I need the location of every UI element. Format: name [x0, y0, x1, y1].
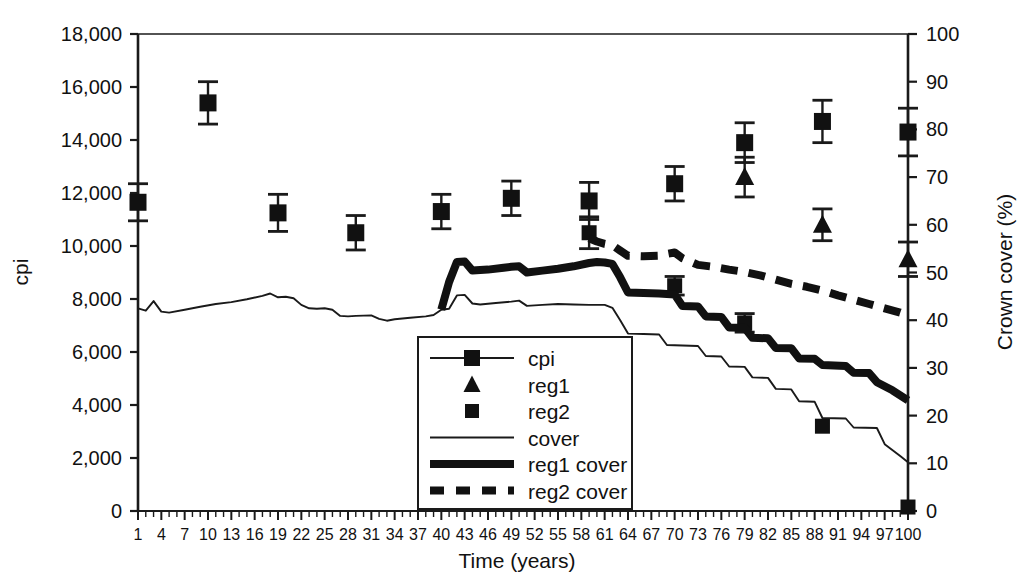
x-tick-label: 52: [526, 526, 544, 543]
y2-tick-label: 20: [926, 405, 948, 427]
y2-tick-label: 90: [926, 71, 948, 93]
y-tick-label: 18,000: [61, 23, 122, 45]
chart-legend: cpireg1reg2coverreg1 coverreg2 cover: [418, 337, 632, 509]
x-tick-label: 73: [689, 526, 707, 543]
x-tick-label: 55: [549, 526, 567, 543]
x-tick-label: 13: [222, 526, 240, 543]
y2-tick-label: 30: [926, 357, 948, 379]
y2-tick-label: 0: [926, 500, 937, 522]
y-tick-label: 0: [111, 500, 122, 522]
y-tick-label: 8,000: [72, 288, 122, 310]
chart-root: 02,0004,0006,0008,00010,00012,00014,0001…: [0, 0, 1035, 588]
y2-tick-label: 100: [926, 23, 959, 45]
data-point-square: [814, 113, 831, 130]
y2-tick-label: 70: [926, 166, 948, 188]
y-tick-label: 2,000: [72, 447, 122, 469]
x-tick-label: 91: [829, 526, 847, 543]
x-tick-label: 19: [269, 526, 287, 543]
y-tick-label: 16,000: [61, 76, 122, 98]
x-tick-label: 31: [362, 526, 380, 543]
y2-tick-label: 80: [926, 118, 948, 140]
x-tick-label: 16: [246, 526, 264, 543]
x-tick-label: 28: [339, 526, 357, 543]
x-tick-label: 70: [666, 526, 684, 543]
x-tick-label: 7: [180, 526, 189, 543]
x-tick-label: 37: [409, 526, 427, 543]
legend-marker-square: [464, 350, 480, 366]
x-tick-label: 67: [642, 526, 660, 543]
x-tick-label: 61: [596, 526, 614, 543]
x-tick-label: 58: [572, 526, 590, 543]
data-point-square: [581, 192, 598, 209]
x-tick-label: 1: [134, 526, 143, 543]
x-axis-title: Time (years): [458, 549, 575, 572]
legend-marker-square: [465, 404, 479, 418]
x-tick-label: 64: [619, 526, 637, 543]
x-tick-label: 94: [852, 526, 870, 543]
x-tick-label: 4: [157, 526, 166, 543]
x-tick-label: 85: [782, 526, 800, 543]
y-tick-label: 10,000: [61, 235, 122, 257]
legend-label: reg1: [528, 374, 570, 397]
y2-tick-label: 60: [926, 214, 948, 236]
x-tick-label: 88: [806, 526, 824, 543]
legend-label: reg2: [528, 400, 570, 423]
data-point-square: [347, 224, 364, 241]
x-tick-label: 79: [736, 526, 754, 543]
legend-label: reg1 cover: [528, 453, 627, 476]
data-point-square: [503, 190, 520, 207]
y-axis-title: cpi: [9, 259, 32, 286]
x-tick-label: 40: [432, 526, 450, 543]
y2-tick-label: 50: [926, 262, 948, 284]
x-tick-label: 34: [386, 526, 404, 543]
x-tick-label: 49: [502, 526, 520, 543]
data-point-square: [901, 500, 916, 515]
data-point-square: [900, 124, 917, 141]
x-tick-label: 76: [712, 526, 730, 543]
data-point-square: [736, 134, 753, 151]
data-point-square: [666, 175, 683, 192]
y2-axis-title: Crown cover (%): [993, 194, 1016, 350]
crown-cover-cpi-chart: 02,0004,0006,0008,00010,00012,00014,0001…: [0, 0, 1035, 588]
y-tick-label: 4,000: [72, 394, 122, 416]
x-tick-label: 46: [479, 526, 497, 543]
data-point-square: [815, 419, 830, 434]
legend-label: reg2 cover: [528, 480, 627, 503]
y-tick-label: 6,000: [72, 341, 122, 363]
data-point-square: [200, 94, 217, 111]
x-tick-label: 97: [876, 526, 894, 543]
x-tick-label: 100: [895, 526, 922, 543]
y-tick-label: 14,000: [61, 129, 122, 151]
data-point-square: [433, 203, 450, 220]
data-point-square: [130, 194, 147, 211]
y2-tick-label: 40: [926, 309, 948, 331]
y2-tick-label: 10: [926, 452, 948, 474]
x-tick-label: 82: [759, 526, 777, 543]
legend-label: cpi: [528, 347, 555, 370]
x-tick-label: 10: [199, 526, 217, 543]
y-tick-label: 12,000: [61, 182, 122, 204]
data-point-square: [270, 204, 287, 221]
x-tick-label: 22: [292, 526, 310, 543]
legend-label: cover: [528, 427, 579, 450]
x-tick-label: 43: [456, 526, 474, 543]
x-tick-label: 25: [316, 526, 334, 543]
